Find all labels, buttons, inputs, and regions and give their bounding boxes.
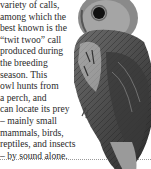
text-line: can locate its prey bbox=[0, 103, 80, 115]
text-line: “twit twoo” call bbox=[0, 34, 80, 46]
text-line: variety of calls, bbox=[0, 0, 80, 11]
text-line: mammals, birds, bbox=[0, 127, 80, 139]
text-line: reptiles, and insects bbox=[0, 138, 80, 150]
text-line: owl hunts from bbox=[0, 80, 80, 92]
text-line: produced during bbox=[0, 45, 80, 57]
text-line: the breeding bbox=[0, 57, 80, 69]
text-line: – by sound alone. bbox=[0, 150, 80, 162]
text-line: a perch, and bbox=[0, 92, 80, 104]
text-line: among which the bbox=[0, 11, 80, 23]
text-line: season. This bbox=[0, 69, 80, 81]
article-text: variety of calls, among which the best k… bbox=[0, 0, 80, 161]
text-line: – mainly small bbox=[0, 115, 80, 127]
text-line: best known is the bbox=[0, 22, 80, 34]
